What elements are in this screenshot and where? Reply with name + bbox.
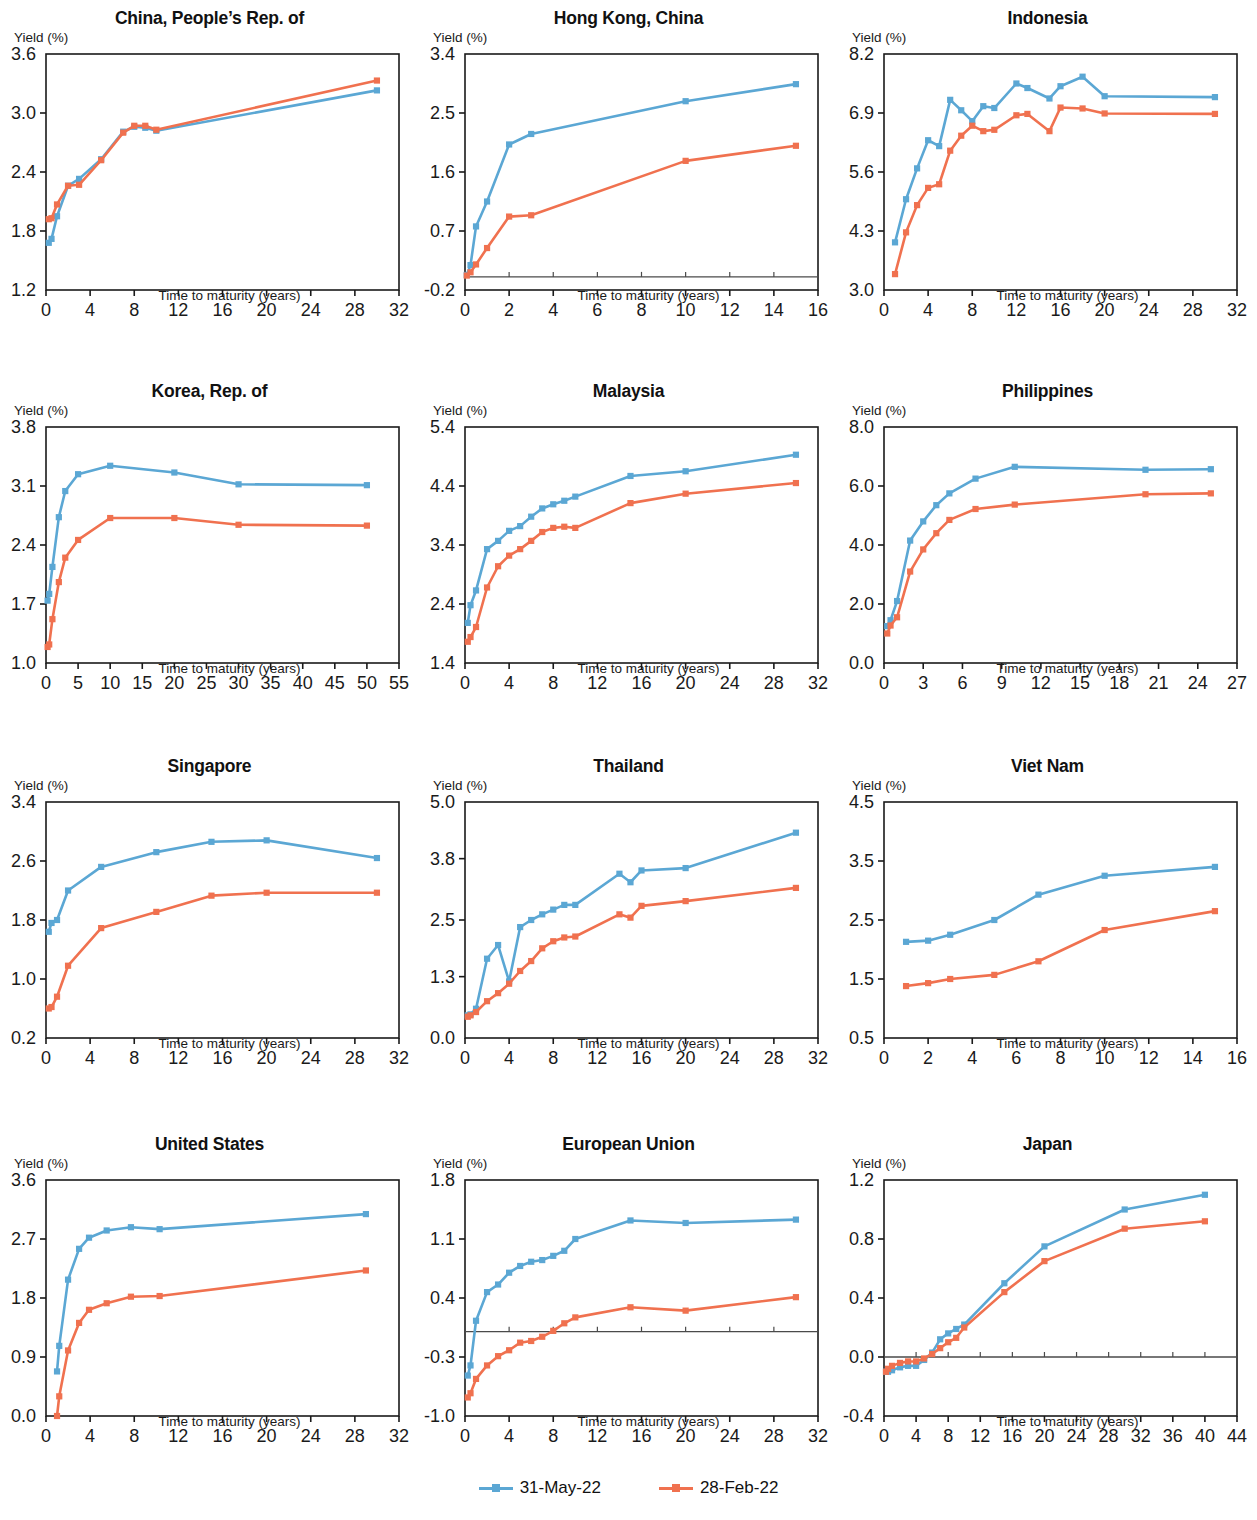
series-marker (46, 929, 52, 935)
series-marker (627, 473, 633, 479)
x-tick-label: 30 (229, 673, 249, 693)
y-tick-label: 2.4 (11, 535, 36, 555)
series-marker (171, 469, 177, 475)
y-tick-label: 3.1 (11, 476, 36, 496)
series-marker (936, 181, 942, 187)
series-marker (921, 1355, 927, 1361)
x-axis-label: Time to maturity (years) (956, 1414, 1138, 1429)
series-marker (56, 579, 62, 585)
series-marker (45, 598, 51, 604)
series-line (906, 911, 1215, 986)
x-tick-label: 16 (631, 1048, 651, 1068)
x-tick-label: 12 (720, 300, 740, 320)
series-marker (1012, 501, 1018, 507)
series-marker (561, 524, 567, 530)
series-marker (1079, 105, 1085, 111)
y-tick-label: 2.0 (849, 594, 874, 614)
series-marker (506, 981, 512, 987)
y-tick-label: 5.0 (430, 794, 455, 812)
panel-title: China, People’s Rep. of (0, 0, 419, 32)
series-marker (1102, 927, 1108, 933)
x-tick-label: 15 (1070, 673, 1090, 693)
x-tick-label: 4 (967, 1048, 977, 1068)
series-marker (473, 1009, 479, 1015)
y-tick-label: 3.4 (11, 794, 36, 812)
chart-panel: MalaysiaYield (%)1.42.43.44.45.404812162… (419, 373, 838, 748)
series-marker (484, 956, 490, 962)
x-tick-label: 12 (587, 1426, 607, 1446)
series-marker (235, 481, 241, 487)
x-axis-label-wrap: Time to maturity (years) (838, 1414, 1257, 1429)
series-marker (969, 123, 975, 129)
x-tick-label: 16 (1227, 1048, 1247, 1068)
x-tick-label: 0 (41, 1048, 51, 1068)
series-marker (171, 515, 177, 521)
x-tick-label: 24 (720, 1048, 740, 1068)
x-tick-label: 0 (460, 300, 470, 320)
series-marker (363, 1267, 369, 1273)
series-marker (1035, 892, 1041, 898)
x-tick-label: 4 (504, 1426, 514, 1446)
y-axis-label: Yield (%) (852, 1156, 906, 1171)
series-marker (65, 963, 71, 969)
x-tick-label: 20 (257, 1426, 277, 1446)
legend-label: 28-Feb-22 (700, 1478, 778, 1498)
series-marker (627, 1217, 633, 1223)
series-marker (56, 1343, 62, 1349)
series-marker (1212, 864, 1218, 870)
series-marker (76, 182, 82, 188)
series-marker (894, 614, 900, 620)
series-marker (528, 131, 534, 137)
series-marker (506, 553, 512, 559)
series-marker (638, 903, 644, 909)
series-marker (550, 1328, 556, 1334)
x-tick-label: 4 (504, 1048, 514, 1068)
legend-marker (492, 1484, 500, 1492)
series-marker (528, 1259, 534, 1265)
series-marker (920, 546, 926, 552)
x-tick-label: 4 (504, 673, 514, 693)
series-marker (972, 506, 978, 512)
series-line (49, 840, 377, 931)
x-tick-label: 4 (85, 300, 95, 320)
y-tick-label: 3.4 (430, 46, 455, 64)
x-tick-label: 55 (389, 673, 409, 693)
x-axis-label-wrap: Time to maturity (years) (419, 1414, 838, 1429)
x-tick-label: 12 (168, 1048, 188, 1068)
y-axis-label: Yield (%) (14, 403, 68, 418)
series-line (887, 467, 1211, 626)
series-marker (933, 502, 939, 508)
x-tick-label: 32 (389, 1048, 409, 1068)
series-marker (616, 871, 622, 877)
x-axis-label: Time to maturity (years) (956, 1036, 1138, 1051)
chart-panel: IndonesiaYield (%)3.04.35.66.98.20481216… (838, 0, 1257, 373)
series-marker (1202, 1218, 1208, 1224)
x-tick-label: 35 (261, 673, 281, 693)
series-marker (208, 839, 214, 845)
legend-swatch-icon (479, 1482, 513, 1494)
x-tick-label: 18 (1109, 673, 1129, 693)
series-marker (539, 529, 545, 535)
series-marker (572, 1236, 578, 1242)
series-marker (75, 537, 81, 543)
series-marker (972, 476, 978, 482)
legend-item: 28-Feb-22 (659, 1478, 778, 1498)
x-tick-label: 20 (1095, 300, 1115, 320)
y-tick-label: 0.0 (849, 1347, 874, 1367)
series-line (468, 483, 796, 642)
series-marker (903, 229, 909, 235)
series-marker (937, 1345, 943, 1351)
series-marker (465, 620, 471, 626)
x-tick-label: 10 (676, 300, 696, 320)
series-marker (793, 143, 799, 149)
series-marker (946, 517, 952, 523)
x-tick-label: 4 (85, 1048, 95, 1068)
series-marker (539, 505, 545, 511)
series-marker (627, 1304, 633, 1310)
x-tick-label: 24 (301, 1048, 321, 1068)
x-tick-label: 6 (957, 673, 967, 693)
series-marker (925, 938, 931, 944)
panel-title: European Union (419, 1126, 838, 1158)
series-marker (945, 1339, 951, 1345)
series-marker (65, 183, 71, 189)
